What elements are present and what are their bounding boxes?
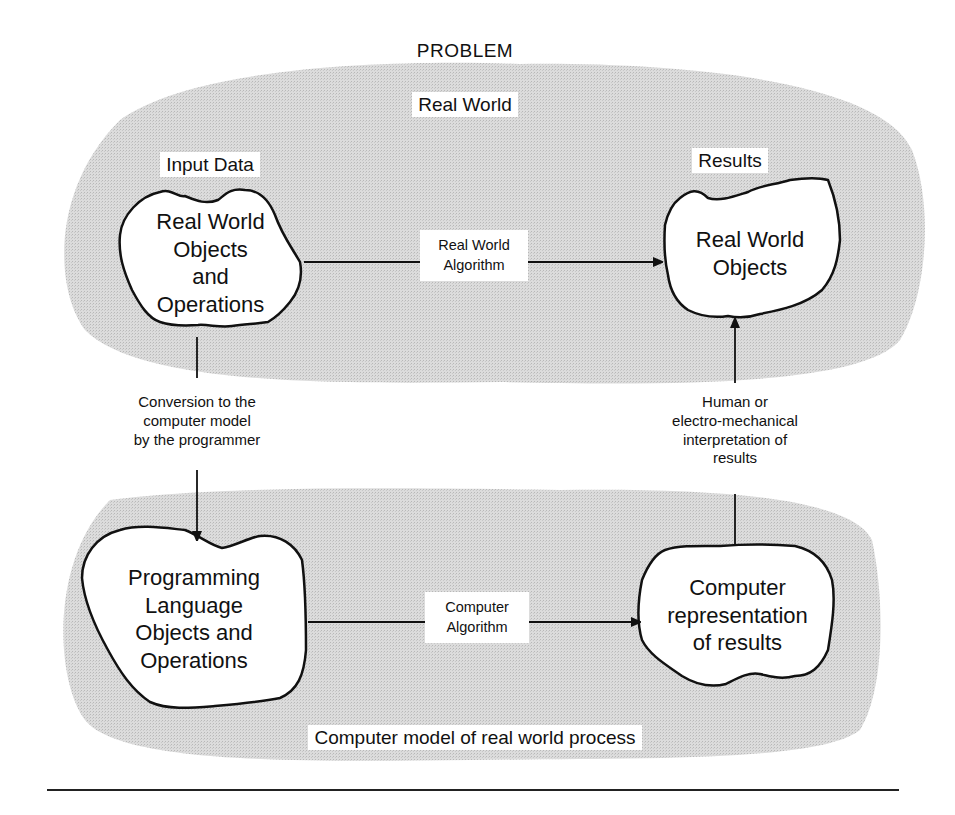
node-line: representation [640, 602, 835, 630]
edge-line: results [635, 449, 835, 468]
edge-line: Real World [426, 236, 522, 256]
interpretation-label: Human or electro-mechanical interpretati… [635, 393, 835, 468]
input-data-text: Input Data [160, 152, 260, 177]
node-line: Objects and [82, 619, 306, 647]
node-line: Computer [640, 574, 835, 602]
node-line: Objects [660, 254, 840, 282]
node-line: of results [640, 629, 835, 657]
results-text: Results [692, 148, 767, 173]
edge-line: Algorithm [431, 618, 523, 638]
computer-model-label-text: Computer model of real world process [308, 725, 641, 750]
edge-line: by the programmer [97, 431, 297, 450]
programming-language-node: Programming Language Objects and Operati… [82, 564, 306, 674]
node-line: Objects [118, 236, 303, 264]
real-world-output-node: Real World Objects [660, 226, 840, 281]
real-world-algorithm-label: Real World Algorithm [420, 230, 528, 281]
horizontal-rule [47, 789, 899, 791]
node-line: Operations [118, 291, 303, 319]
edge-line: Algorithm [426, 256, 522, 276]
node-line: and [118, 263, 303, 291]
real-world-label-text: Real World [412, 92, 518, 117]
edge-line: Human or [635, 393, 835, 412]
results-label: Results [685, 150, 775, 172]
edge-line: interpretation of [635, 431, 835, 450]
node-line: Programming [82, 564, 306, 592]
edge-line: electro-mechanical [635, 412, 835, 431]
conversion-label: Conversion to the computer model by the … [97, 393, 297, 449]
real-world-label: Real World [395, 94, 535, 116]
node-line: Language [82, 592, 306, 620]
node-line: Real World [660, 226, 840, 254]
input-data-label: Input Data [150, 154, 270, 176]
diagram-title: PROBLEM [0, 40, 930, 62]
node-line: Operations [82, 647, 306, 675]
edge-line: Conversion to the [97, 393, 297, 412]
edge-line: Computer [431, 598, 523, 618]
edge-line: computer model [97, 412, 297, 431]
computer-model-label: Computer model of real world process [265, 727, 685, 749]
real-world-input-node: Real World Objects and Operations [118, 208, 303, 318]
computer-results-node: Computer representation of results [640, 574, 835, 657]
node-line: Real World [118, 208, 303, 236]
computer-algorithm-label: Computer Algorithm [425, 592, 529, 643]
